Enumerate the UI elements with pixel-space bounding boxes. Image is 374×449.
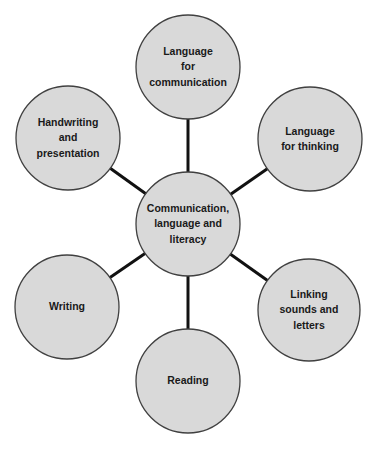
node-label-linking-sounds-and-letters: Linking sounds and letters xyxy=(259,270,359,350)
center-node-label: Communication, language and literacy xyxy=(138,184,238,264)
node-label-language-for-communication: Language for communication xyxy=(138,27,238,107)
node-label-language-for-thinking: Language for thinking xyxy=(260,99,360,179)
node-label-reading: Reading xyxy=(138,341,238,421)
node-label-handwriting-and-presentation: Handwriting and presentation xyxy=(18,98,118,178)
node-label-writing: Writing xyxy=(17,267,117,347)
